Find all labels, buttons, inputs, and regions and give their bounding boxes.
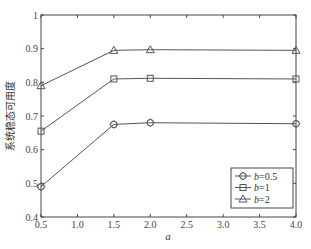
y-tick-label: 0.9 bbox=[26, 43, 39, 54]
x-axis-label: a bbox=[165, 230, 171, 242]
x-tick-label: 3.5 bbox=[253, 219, 266, 230]
line-chart: 0.40.50.60.70.80.91 0.51.01.52.02.53.03.… bbox=[0, 0, 311, 249]
legend-label: b=1 bbox=[254, 182, 270, 193]
x-tick-label: 1.5 bbox=[108, 219, 121, 230]
legend-label: b=2 bbox=[254, 194, 270, 205]
y-tick-label: 0.8 bbox=[26, 77, 39, 88]
y-tick-label: 0.7 bbox=[26, 111, 39, 122]
x-tick-label: 2.0 bbox=[144, 219, 157, 230]
x-tick-label: 4.0 bbox=[290, 219, 303, 230]
legend: b=0.5b=1b=2 bbox=[231, 168, 293, 208]
x-tick-label: 1.0 bbox=[71, 219, 84, 230]
x-tick-label: 2.5 bbox=[180, 219, 193, 230]
y-axis-label: 系统稳态可用度 bbox=[4, 81, 16, 151]
legend-label: b=0.5 bbox=[254, 171, 277, 182]
x-tick-label: 0.5 bbox=[35, 219, 48, 230]
y-tick-label: 0.6 bbox=[26, 144, 39, 155]
x-tick-label: 3.0 bbox=[217, 219, 230, 230]
y-tick-label: 0.5 bbox=[26, 178, 39, 189]
y-tick-label: 1 bbox=[33, 10, 38, 21]
